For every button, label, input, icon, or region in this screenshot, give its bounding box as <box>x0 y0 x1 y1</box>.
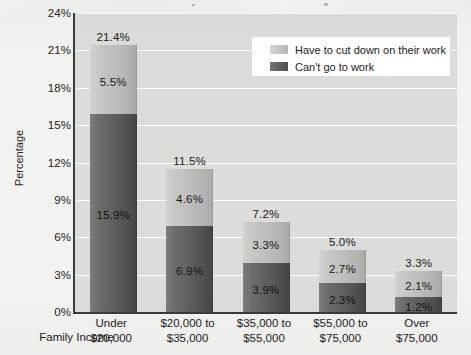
y-axis-tick-label: 18% <box>5 82 71 94</box>
legend-item-have-to-cut-down: Have to cut down on their work <box>270 41 450 58</box>
y-axis-tick-label: 21% <box>5 44 71 56</box>
legend-swatch-icon-light <box>270 45 288 54</box>
bar-segment-value-label: 2.3% <box>319 294 366 306</box>
bar-group[interactable]: 6.9%4.6%11.5% <box>166 13 213 312</box>
x-axis-tick-label: $55,000 to$75,000 <box>302 316 378 346</box>
y-axis-tick-label: 24% <box>5 7 71 19</box>
legend-swatch-icon-dark <box>270 62 288 71</box>
bar-segment-value-label: 5.5% <box>90 76 137 88</box>
bar-segment-value-label: 2.7% <box>319 263 366 275</box>
x-axis-tick-line: Under <box>73 316 149 331</box>
bar-segment-value-label: 3.3% <box>243 239 290 251</box>
x-axis-tick-label: Over$75,000 <box>379 316 455 346</box>
x-axis-ticks: Family Income Under$20,000$20,000 to$35,… <box>0 314 471 355</box>
legend-item-cant-go-to-work: Can't go to work <box>270 58 450 75</box>
x-axis-tick-line: $20,000 <box>73 331 149 346</box>
bar-group[interactable]: 15.9%5.5%21.4% <box>90 13 137 312</box>
x-axis-tick-line: $75,000 <box>302 331 378 346</box>
bar-total-label: 3.3% <box>386 257 451 269</box>
bar-total-label: 11.5% <box>157 155 222 167</box>
x-axis-tick-label: $35,000 to$55,000 <box>226 316 302 346</box>
x-axis-tick-line: $75,000 <box>379 331 455 346</box>
chart-legend: Have to cut down on their work Can't go … <box>252 37 450 76</box>
bar-segment-value-label: 3.9% <box>243 284 290 296</box>
bar-total-label: 21.4% <box>81 31 146 43</box>
x-axis-tick-line: $55,000 <box>226 331 302 346</box>
bar-segment-value-label: 15.9% <box>90 209 137 221</box>
x-axis-tick-line: $35,000 <box>149 331 225 346</box>
bar-total-label: 7.2% <box>234 208 299 220</box>
x-axis-tick-line: $20,000 to <box>149 316 225 331</box>
y-axis-ticks: 0%3%6%9%12%15%18%21%24% <box>0 0 71 355</box>
x-axis-tick-label: Under$20,000 <box>73 316 149 346</box>
bar-segment-value-label: 4.6% <box>166 193 213 205</box>
bar-segment-value-label: 1.2% <box>395 301 442 312</box>
bar-total-label: 5.0% <box>310 236 375 248</box>
y-axis-tick-label: 6% <box>5 231 71 243</box>
bar-segment-value-label: 2.1% <box>395 280 442 292</box>
legend-label: Have to cut down on their work <box>295 44 446 56</box>
x-axis-tick-label: $20,000 to$35,000 <box>149 316 225 346</box>
y-axis-title: Percentage <box>13 113 25 203</box>
legend-label: Can't go to work <box>295 61 374 73</box>
y-axis-tick-label: 3% <box>5 269 71 281</box>
x-axis-tick-line: $55,000 to <box>302 316 378 331</box>
x-axis-tick-line: $35,000 to <box>226 316 302 331</box>
stacked-bar-chart: 0%3%6%9%12%15%18%21%24% Percentage 15.9%… <box>0 0 471 355</box>
x-axis-tick-line: Over <box>379 316 455 331</box>
bar-segment-value-label: 6.9% <box>166 265 213 277</box>
